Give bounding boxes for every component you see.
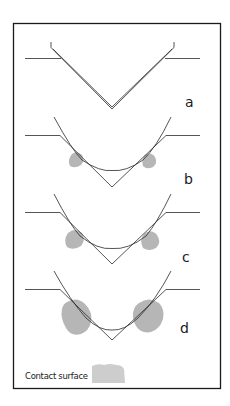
diagram-canvas: [0, 0, 230, 406]
panel-d: [25, 271, 200, 340]
panel-label-a: a: [185, 95, 194, 109]
figure-frame: [14, 24, 221, 389]
contact-blob-left: [62, 299, 92, 334]
panel-c: [25, 194, 200, 264]
panel-label-b: b: [184, 172, 193, 186]
panel-b: [25, 117, 200, 187]
panel-label-d: d: [180, 321, 189, 335]
contact-blob-left: [69, 152, 83, 167]
legend-label: Contact surface: [25, 371, 88, 381]
v-groove-inner: [53, 49, 172, 107]
v-groove-outer: [51, 42, 174, 109]
contact-surface-diagram: a b c d Contact surface: [0, 0, 230, 406]
panel-label-c: c: [182, 250, 190, 264]
legend-swatch: [92, 364, 125, 383]
panel-a: [25, 42, 200, 109]
